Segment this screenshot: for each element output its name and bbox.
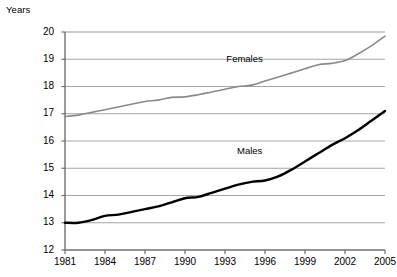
y-tick-label: 12 <box>8 244 54 255</box>
y-tick-label: 14 <box>8 189 54 200</box>
series-line-females <box>65 36 385 116</box>
y-tick-label: 19 <box>8 53 54 64</box>
gridlines <box>65 32 385 223</box>
chart-container: Years 201918171615141312 198119841987199… <box>0 0 397 277</box>
y-tick-label: 15 <box>8 162 54 173</box>
y-tick-label: 13 <box>8 216 54 227</box>
series-line-males <box>65 111 385 223</box>
y-tick-label: 18 <box>8 80 54 91</box>
y-tick-label: 20 <box>8 26 54 37</box>
y-tick-label: 16 <box>8 135 54 146</box>
series-label-males: Males <box>237 145 262 156</box>
data-series-group <box>65 36 385 223</box>
x-tick-label: 2005 <box>358 256 397 267</box>
chart-plot-area <box>0 0 397 277</box>
y-tick-label: 17 <box>8 107 54 118</box>
series-label-females: Females <box>226 53 262 64</box>
